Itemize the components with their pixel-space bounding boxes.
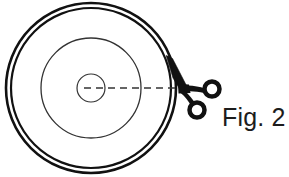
figure-2-drawing: Fig. 2 xyxy=(0,0,289,177)
figure-canvas: Fig. 2 xyxy=(0,0,289,177)
figure-caption: Fig. 2 xyxy=(222,103,286,131)
